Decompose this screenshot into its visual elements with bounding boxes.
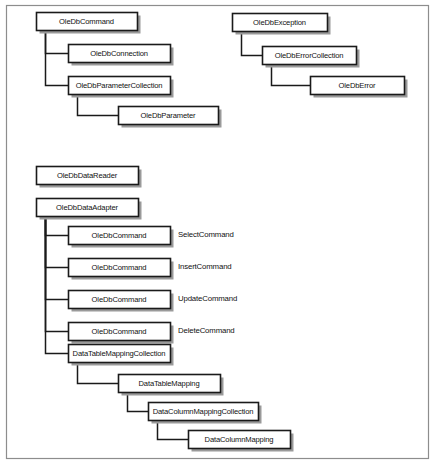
class-box: OleDbException	[233, 14, 331, 35]
class-name-label: OleDbException	[253, 18, 306, 27]
class-box: OleDbParameterCollection	[69, 77, 174, 98]
class-name-label: OleDbDataReader	[57, 171, 118, 180]
class-box: OleDbConnection	[69, 45, 174, 66]
class-name-label: OleDbErrorCollection	[275, 51, 344, 60]
property-label-insertcommand: InsertCommand	[178, 262, 232, 271]
property-label-deletecommand: DeleteCommand	[178, 326, 235, 335]
class-name-label: OleDbParameterCollection	[76, 81, 163, 90]
class-box: OleDbCommand	[69, 259, 174, 280]
class-box: OleDbCommand	[37, 13, 141, 34]
class-name-label: OleDbParameter	[141, 111, 196, 120]
connector-e1-to-e2	[242, 31, 263, 56]
class-box: OleDbErrorCollection	[263, 47, 360, 68]
connector-a1-to-a4	[46, 216, 69, 300]
class-box: DataColumnMapping	[189, 431, 294, 452]
class-name-label: OleDbCommand	[92, 263, 147, 272]
property-labels: SelectCommandInsertCommandUpdateCommandD…	[178, 230, 237, 335]
connector-a1-to-a6	[46, 216, 69, 354]
connector-a1-to-a3	[46, 216, 69, 268]
connector-n1-to-n3	[46, 30, 69, 86]
class-name-label: OleDbCommand	[92, 327, 147, 336]
connector-n1-to-n2	[46, 30, 69, 54]
connector-a1-to-a5	[46, 216, 69, 332]
class-name-label: DataTableMapping	[139, 379, 200, 388]
class-box: DataTableMappingCollection	[69, 345, 174, 366]
class-box: OleDbCommand	[69, 291, 174, 312]
class-box: DataTableMapping	[119, 375, 224, 396]
class-name-label: OleDbCommand	[92, 295, 147, 304]
class-box: OleDbParameter	[119, 107, 222, 128]
class-box: OleDbDataReader	[37, 167, 142, 188]
class-box: DataColumnMappingCollection	[149, 403, 262, 424]
property-label-selectcommand: SelectCommand	[178, 230, 234, 239]
class-name-label: OleDbConnection	[90, 49, 148, 58]
class-name-label: DataColumnMappingCollection	[153, 407, 254, 416]
class-name-label: OleDbCommand	[59, 17, 114, 26]
property-label-updatecommand: UpdateCommand	[178, 294, 237, 303]
class-box: OleDbDataAdapter	[37, 199, 142, 220]
class-name-label: OleDbError	[339, 81, 377, 90]
class-hierarchy-diagram: OleDbCommandOleDbConnectionOleDbParamete…	[0, 0, 439, 467]
class-box: OleDbCommand	[69, 227, 174, 248]
diagram-canvas: OleDbCommandOleDbConnectionOleDbParamete…	[0, 0, 439, 467]
class-name-label: OleDbCommand	[92, 231, 147, 240]
class-box: OleDbCommand	[69, 323, 174, 344]
class-name-label: DataColumnMapping	[205, 435, 274, 444]
class-name-label: DataTableMappingCollection	[73, 349, 166, 358]
class-box: OleDbError	[311, 77, 408, 98]
class-name-label: OleDbDataAdapter	[56, 203, 118, 212]
